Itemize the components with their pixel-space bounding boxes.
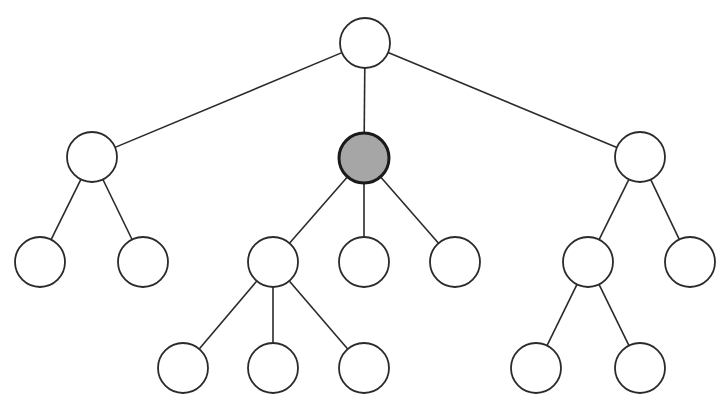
edge-c1-c1a xyxy=(547,284,577,345)
edge-root-b xyxy=(364,68,365,133)
tree-node-b2 xyxy=(339,237,389,287)
edge-root-a xyxy=(115,53,342,148)
edge-b1-b1c xyxy=(289,281,347,349)
tree-node-b1b xyxy=(248,343,298,393)
tree-node-a xyxy=(67,132,117,182)
edge-a-a1 xyxy=(51,179,81,239)
tree-node-b1 xyxy=(248,237,298,287)
tree-node-a1 xyxy=(15,237,65,287)
tree-node-root xyxy=(340,18,390,68)
edge-b-b1 xyxy=(289,177,347,243)
tree-node-c2 xyxy=(665,237,715,287)
tree-node-a2 xyxy=(118,237,168,287)
edge-b-b3 xyxy=(380,177,438,243)
tree-diagram xyxy=(0,0,728,409)
edge-b1-b1a xyxy=(199,281,257,349)
tree-node-c1a xyxy=(511,343,561,393)
tree-node-b1c xyxy=(339,343,389,393)
highlighted-node xyxy=(339,133,389,183)
edge-c-c1 xyxy=(599,179,629,239)
tree-node-c xyxy=(615,132,665,182)
tree-node-b1a xyxy=(158,343,208,393)
edge-root-c xyxy=(388,53,617,148)
tree-node-c1b xyxy=(615,343,665,393)
edge-a-a2 xyxy=(103,179,132,239)
tree-node-c1 xyxy=(563,237,613,287)
edge-c1-c1b xyxy=(599,284,629,345)
tree-edges xyxy=(51,53,679,349)
edge-c-c2 xyxy=(651,180,680,240)
tree-node-b3 xyxy=(430,237,480,287)
